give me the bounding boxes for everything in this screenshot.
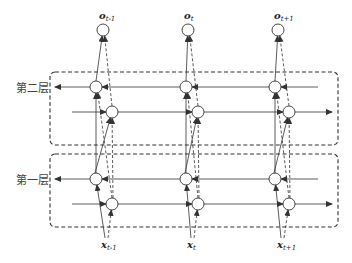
layer-arrow xyxy=(112,118,113,198)
input-label: xt-1 xyxy=(101,239,117,252)
backward-node xyxy=(269,173,281,185)
layer-arrow xyxy=(198,118,199,198)
forward-node xyxy=(106,198,118,210)
layer-1-box xyxy=(50,154,338,227)
output-arrow xyxy=(275,36,278,81)
forward-node xyxy=(192,106,204,118)
input-label: xt+1 xyxy=(277,239,296,252)
output-label: ot xyxy=(184,10,194,23)
output-arrow xyxy=(280,36,289,106)
forward-node xyxy=(106,106,118,118)
output-arrow xyxy=(186,36,188,81)
input-arrow xyxy=(187,185,191,238)
layer-1-label: 第一层 xyxy=(16,171,49,187)
backward-node xyxy=(180,173,192,185)
layer-arrow xyxy=(289,118,290,198)
output-node xyxy=(97,24,109,36)
forward-node xyxy=(283,198,295,210)
input-arrow xyxy=(276,185,281,238)
bidirectional-rnn-diagram xyxy=(0,0,352,263)
output-node xyxy=(182,24,194,36)
layer-2-label: 第二层 xyxy=(16,79,49,95)
output-node xyxy=(272,24,284,36)
output-arrow xyxy=(105,36,112,106)
backward-node xyxy=(269,81,281,93)
input-arrow xyxy=(284,210,288,238)
forward-node xyxy=(283,106,295,118)
output-label: ot+1 xyxy=(274,10,294,23)
output-label: ot-1 xyxy=(99,10,115,23)
input-label: xt xyxy=(187,239,196,252)
forward-node xyxy=(192,198,204,210)
backward-node xyxy=(90,173,102,185)
backward-node xyxy=(180,81,192,93)
input-arrow xyxy=(97,185,105,238)
input-arrow xyxy=(194,210,197,238)
backward-node xyxy=(90,81,102,93)
output-arrow xyxy=(96,36,102,81)
output-arrow xyxy=(190,36,198,106)
input-arrow xyxy=(108,210,111,238)
